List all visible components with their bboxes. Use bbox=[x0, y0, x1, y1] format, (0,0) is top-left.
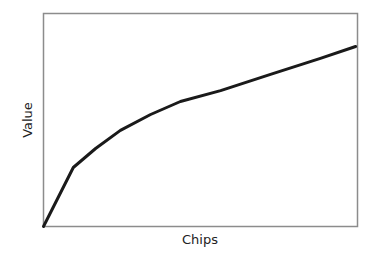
x-axis-label: Chips bbox=[182, 232, 218, 247]
data-line bbox=[44, 47, 356, 227]
line-chart: Value Chips bbox=[0, 0, 376, 261]
plot-frame bbox=[44, 14, 358, 227]
y-axis-label: Value bbox=[20, 102, 35, 138]
chart-plot bbox=[0, 0, 376, 261]
